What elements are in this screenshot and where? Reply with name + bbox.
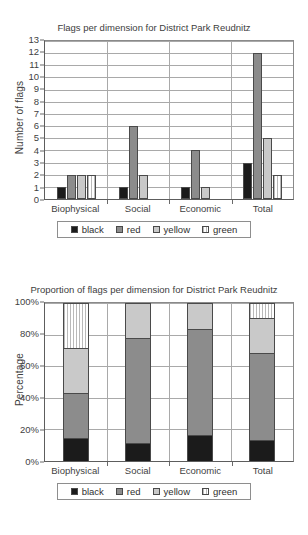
legend-swatch-red-icon [116,226,123,233]
legend-item-red[interactable]: red [116,224,141,235]
x-axis-label: Total [232,465,295,476]
stacked-bar [63,303,89,461]
legend-label: black [82,486,104,497]
legend-item-yellow[interactable]: yellow [153,486,190,497]
x-tick-mark [232,462,233,466]
legend-swatch-green-icon [202,226,209,233]
stack-segment-yellow [250,318,274,354]
legend-item-black[interactable]: black [71,224,104,235]
bar-yellow [77,175,86,199]
x-axis-label: Social [107,203,170,214]
bar-black [57,187,66,199]
y-tick-label: 12 [28,48,39,58]
stack-segment-red [64,393,88,438]
bar-black [243,163,252,199]
stack-segment-red [250,353,274,439]
stack-segment-green [250,303,274,317]
bar-red [191,150,200,199]
y-tick-label: 80% [20,329,39,339]
legend-top: blackredyellowgreen [57,221,252,238]
bar-red [253,53,262,199]
x-tick-mark [169,462,170,466]
proportion-of-flags-chart: Proportion of flags per dimension for Di… [0,272,308,535]
legend-item-green[interactable]: green [202,486,237,497]
flags-per-dimension-chart: Flags per dimension for District Park Re… [0,0,308,272]
legend-bottom: blackredyellowgreen [57,483,252,500]
x-axis-label: Economic [169,203,232,214]
y-tick-label: 2 [34,171,39,181]
stack-segment-red [188,329,212,434]
bar-black [181,187,190,199]
bar-yellow [263,138,272,199]
legend-swatch-black-icon [71,226,78,233]
y-tick-label: 40% [20,393,39,403]
legend-item-yellow[interactable]: yellow [153,224,190,235]
y-axis-ticks-bottom: 0%20%40%60%80%100% [0,302,44,462]
legend-label: black [82,224,104,235]
y-tick-label: 10 [28,72,39,82]
x-tick-mark [169,200,170,204]
stacked-bar-group [169,303,231,461]
y-tick-label: 20% [20,425,39,435]
bar-group [169,41,231,199]
x-axis-label: Biophysical [44,465,107,476]
bar-group [107,41,169,199]
y-tick-label: 0% [25,457,39,467]
plot-area-top: Number of flags 012345678910111213 [0,40,308,200]
chart-title-bottom: Proportion of flags per dimension for Di… [0,272,308,296]
y-tick-label: 3 [34,158,39,168]
bar-group [231,41,293,199]
y-tick-label: 6 [34,121,39,131]
legend-item-red[interactable]: red [116,486,141,497]
plot-area-bottom: Percentage 0%20%40%60%80%100% [0,302,308,462]
legend-label: green [213,224,237,235]
legend-label: green [213,486,237,497]
stacked-bar-group [45,303,107,461]
bar-green [87,175,96,199]
stack-segment-yellow [126,303,150,338]
y-tick-label: 9 [34,84,39,94]
plot-frame-top [44,40,294,200]
stack-segment-yellow [188,303,212,329]
stacked-bar [125,303,151,461]
legend-label: yellow [164,224,190,235]
y-tick-label: 13 [28,35,39,45]
x-axis-label: Biophysical [44,203,107,214]
legend-swatch-yellow-icon [153,488,160,495]
legend-item-green[interactable]: green [202,224,237,235]
x-tick-mark [107,200,108,204]
legend-label: red [127,224,141,235]
plot-frame-bottom [44,302,294,462]
stacked-bar-groups-bottom [45,303,293,461]
y-tick-label: 100% [15,297,39,307]
bar-yellow [139,175,148,199]
y-tick-label: 4 [34,146,39,156]
bar-green [273,175,282,199]
legend-label: yellow [164,486,190,497]
y-tick-label: 5 [34,134,39,144]
stacked-bar-group [107,303,169,461]
stacked-bar [249,303,275,461]
bar-black [119,187,128,199]
y-axis-ticks-top: 012345678910111213 [0,40,44,200]
legend-label: red [127,486,141,497]
stack-segment-red [126,338,150,443]
chart-title-top: Flags per dimension for District Park Re… [0,0,308,34]
stack-segment-black [64,438,88,461]
stack-segment-green [64,303,88,348]
y-tick-label: 1 [34,183,39,193]
bar-group [45,41,107,199]
y-tick-label: 7 [34,109,39,119]
legend-item-black[interactable]: black [71,486,104,497]
x-tick-mark [232,200,233,204]
x-axis-label: Social [107,465,170,476]
stacked-bar-group [231,303,293,461]
y-tick-label: 11 [29,60,39,70]
legend-swatch-yellow-icon [153,226,160,233]
y-tick-label: 8 [34,97,39,107]
x-axis-label: Total [232,203,295,214]
stack-segment-yellow [64,348,88,393]
bar-yellow [201,187,210,199]
x-tick-mark [107,462,108,466]
y-tick-label: 0 [34,195,39,205]
